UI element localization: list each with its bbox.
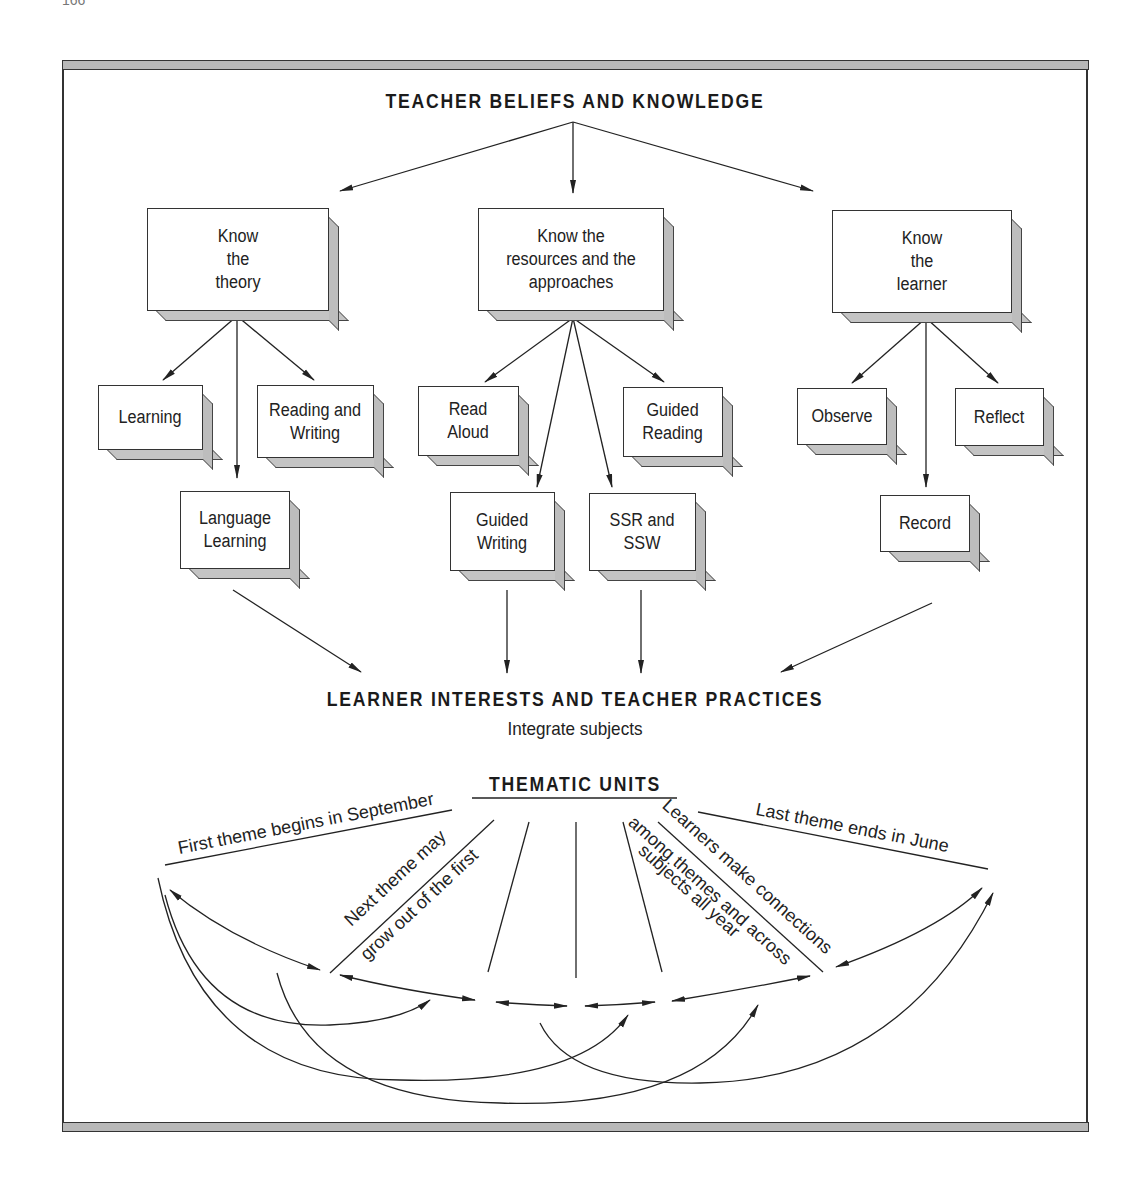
box-label: Reading and Writing (270, 399, 362, 445)
top-heading: TEACHER BELIEFS AND KNOWLEDGE (359, 90, 790, 113)
box-label: Record (899, 512, 951, 535)
box-label: Reflect (974, 406, 1024, 429)
box-ssr-ssw: SSR and SSW (589, 493, 696, 571)
box-guided-writing: Guided Writing (450, 492, 555, 571)
thematic-heading: THEMATIC UNITS (483, 773, 668, 796)
box-label: Guided Reading (643, 399, 703, 445)
box-observe: Observe (797, 388, 887, 445)
box-learning: Learning (98, 385, 203, 450)
box-label: SSR and SSW (610, 509, 675, 555)
box-know-resources: Know the resources and the approaches (478, 208, 664, 311)
box-label: Observe (811, 405, 872, 428)
box-read-aloud: Read Aloud (418, 386, 519, 456)
box-label: Read Aloud (448, 398, 489, 444)
box-label: Know the theory (215, 225, 260, 294)
box-label: Learning (119, 406, 182, 429)
box-label: Know the resources and the approaches (506, 225, 636, 294)
box-language-learning: Language Learning (180, 491, 290, 569)
box-label: Know the learner (897, 227, 947, 296)
box-know-learner: Know the learner (832, 210, 1012, 313)
middle-subtitle: Integrate subjects (481, 718, 670, 740)
box-label: Language Learning (199, 507, 271, 553)
box-reading-writing: Reading and Writing (257, 385, 374, 458)
box-label: Guided Writing (476, 509, 528, 555)
box-know-theory: Know the theory (147, 208, 329, 311)
box-guided-reading: Guided Reading (623, 387, 723, 457)
box-reflect: Reflect (955, 388, 1044, 446)
connector-lines (0, 0, 1146, 1189)
middle-heading: LEARNER INTERESTS AND TEACHER PRACTICES (307, 688, 844, 711)
box-record: Record (880, 495, 970, 552)
